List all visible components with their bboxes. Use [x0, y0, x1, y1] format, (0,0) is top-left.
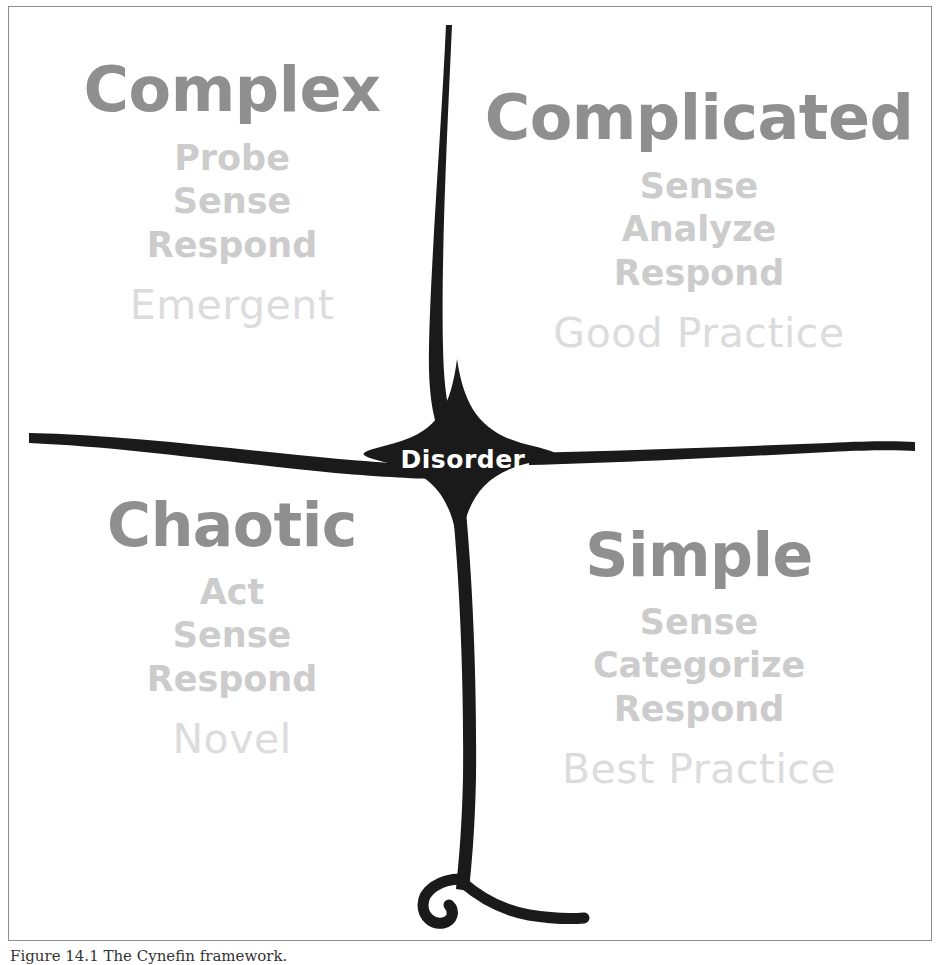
quadrant-chaotic: Chaotic Act Sense Respond Novel — [37, 495, 427, 760]
quadrant-complex-step-1: Probe — [37, 137, 427, 180]
horizontal-divider-right — [529, 441, 915, 465]
bottom-hook-curve — [423, 879, 461, 923]
quadrant-chaotic-step-3: Respond — [37, 658, 427, 701]
quadrant-simple-outcome: Best Practice — [479, 749, 919, 790]
figure-caption: Figure 14.1 The Cynefin framework. — [10, 947, 930, 965]
quadrant-complex-steps: Probe Sense Respond — [37, 137, 427, 267]
quadrant-simple-title: Simple — [479, 525, 919, 585]
quadrant-complex-outcome: Emergent — [37, 285, 427, 326]
bottom-tail-curve — [461, 881, 584, 919]
quadrant-complicated-step-1: Sense — [479, 165, 919, 208]
quadrant-complex-step-2: Sense — [37, 180, 427, 223]
quadrant-simple-steps: Sense Categorize Respond — [479, 601, 919, 731]
quadrant-chaotic-steps: Act Sense Respond — [37, 571, 427, 701]
quadrant-chaotic-step-1: Act — [37, 571, 427, 614]
quadrant-complicated-step-2: Analyze — [479, 208, 919, 251]
quadrant-complex-title: Complex — [37, 59, 427, 121]
diagram-frame: Complex Probe Sense Respond Emergent Com… — [8, 6, 932, 941]
quadrant-complex: Complex Probe Sense Respond Emergent — [37, 59, 427, 326]
quadrant-complicated-outcome: Good Practice — [479, 313, 919, 354]
quadrant-complicated: Complicated Sense Analyze Respond Good P… — [479, 87, 919, 354]
quadrant-chaotic-step-2: Sense — [37, 614, 427, 657]
quadrant-complex-step-3: Respond — [37, 224, 427, 267]
quadrant-simple-step-2: Categorize — [479, 644, 919, 687]
quadrant-complicated-title: Complicated — [479, 87, 919, 149]
quadrant-chaotic-outcome: Novel — [37, 719, 427, 760]
quadrant-complicated-step-3: Respond — [479, 252, 919, 295]
quadrant-simple-step-3: Respond — [479, 688, 919, 731]
quadrant-chaotic-title: Chaotic — [37, 495, 427, 555]
quadrant-simple-step-1: Sense — [479, 601, 919, 644]
quadrant-simple: Simple Sense Categorize Respond Best Pra… — [479, 525, 919, 790]
quadrant-complicated-steps: Sense Analyze Respond — [479, 165, 919, 295]
vertical-divider-bottom — [451, 491, 476, 891]
